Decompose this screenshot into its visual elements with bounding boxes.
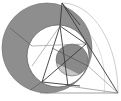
geometry-diagram <box>0 0 121 101</box>
line-i <box>68 86 118 93</box>
line-j <box>88 66 118 93</box>
